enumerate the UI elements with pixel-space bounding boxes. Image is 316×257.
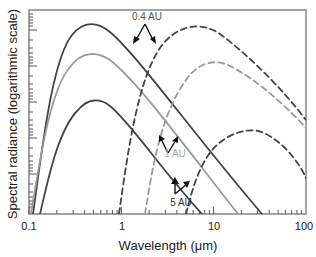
y-axis-title: Spectral radiance (logarithmic scale) (5, 9, 20, 219)
plot-frame (29, 10, 306, 214)
x-tick-1: 1 (119, 220, 125, 232)
x-tick-labels: 0.1 1 10 100 (21, 220, 313, 232)
label-0-4au: 0.4 AU (132, 11, 162, 22)
annotation-1au: 1 AU (159, 135, 186, 159)
annotation-0-4au: 0.4 AU (132, 11, 162, 44)
x-tick-0-1: 0.1 (21, 220, 36, 232)
x-axis-title: Wavelength (μm) (119, 238, 218, 253)
curve-thermal-0-4au (119, 26, 306, 214)
label-1au: 1 AU (164, 148, 186, 159)
curve-thermal-1au (145, 62, 306, 214)
arrowhead-icon (171, 177, 190, 188)
x-tick-100: 100 (295, 220, 313, 232)
annotation-5au: 5 AU (170, 177, 192, 208)
arrowhead-icon (133, 36, 156, 44)
label-5au: 5 AU (170, 197, 192, 208)
x-tick-10: 10 (208, 220, 220, 232)
curve-reflected-0-4au (33, 24, 262, 214)
spectral-radiance-chart: 0.1 1 10 100 Wavelength (μm) Spectral ra… (0, 0, 316, 257)
arrow-icon (136, 24, 153, 40)
y-axis-ticks (29, 14, 37, 207)
